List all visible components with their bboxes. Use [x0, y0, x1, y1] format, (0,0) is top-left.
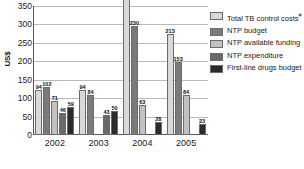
y-axis-ticks: 350 300 250 200 150 100 50 0 [2, 0, 32, 169]
bar-groups: 94 102 71 46 59 94 [33, 6, 208, 135]
bar-slot-ntp-funding: 71 [51, 6, 58, 135]
bar-chart: US$ 350 300 250 200 150 100 50 0 94 [0, 0, 304, 169]
bar-ntp-expenditure: 43 [103, 115, 110, 135]
bar-total-cost: 94 [35, 90, 42, 135]
plot-area: 94 102 71 46 59 94 [33, 6, 208, 135]
bar-value-label: 50 [112, 106, 118, 112]
bar-slot-ntp-expenditure: 43 [103, 6, 110, 135]
legend-label-total-cost: Total TB control costs# [227, 11, 302, 23]
bar-slot-total-cost: 94 [35, 6, 42, 135]
bar-value-label: 213 [166, 29, 175, 35]
bar-value-label: 94 [36, 85, 42, 91]
legend-label-drugs-budget: First-line drugs budget [227, 64, 302, 73]
bar-group-2003: 94 84 43 50 [77, 6, 121, 135]
bar-ntp-budget: 230 [131, 26, 138, 135]
legend-swatch-icon [210, 28, 223, 36]
bar-slot-ntp-funding [95, 6, 102, 135]
bar-ntp-budget: 153 [175, 62, 182, 135]
legend-item-ntp-funding: NTP available funding [210, 39, 302, 48]
y-tick-250: 250 [6, 38, 32, 48]
x-label-2005: 2005 [164, 138, 208, 148]
bar-drugs-budget: 59 [67, 107, 74, 135]
x-axis-labels: 2002 2003 2004 2005 [33, 138, 208, 148]
bar-slot-ntp-budget: 102 [43, 6, 50, 135]
bar-drugs-budget: 23 [199, 124, 206, 135]
y-tick-300: 300 [6, 19, 32, 29]
bar-slot-ntp-expenditure [147, 6, 154, 135]
bar-slot-drugs-budget: 59 [67, 6, 74, 135]
x-label-2004: 2004 [121, 138, 165, 148]
bar-value-label: 102 [42, 82, 51, 88]
bar-value-label: 23 [199, 119, 205, 125]
y-tick-200: 200 [6, 56, 32, 66]
bar-slot-ntp-budget: 84 [87, 6, 94, 135]
bar-value-label: 153 [174, 57, 183, 63]
legend-label-text: Total TB control costs [227, 14, 299, 23]
bar-ntp-budget: 102 [43, 87, 50, 136]
bar-slot-ntp-expenditure: 46 [59, 6, 66, 135]
bar-value-label: 84 [88, 90, 94, 96]
legend-swatch-icon [210, 53, 223, 61]
legend-item-drugs-budget: First-line drugs budget [210, 64, 302, 73]
legend-label-ntp-expenditure: NTP expenditure [227, 52, 283, 61]
bar-value-label: 63 [139, 100, 145, 106]
legend-item-ntp-budget: NTP budget [210, 27, 302, 36]
bar-value-label: 59 [68, 102, 74, 108]
legend-swatch-icon [210, 12, 223, 20]
bar-slot-ntp-funding: 63 [139, 6, 146, 135]
bar-slot-ntp-budget: 153 [175, 6, 182, 135]
y-tick-0: 0 [6, 130, 32, 140]
legend-item-ntp-expenditure: NTP expenditure [210, 52, 302, 61]
x-label-2003: 2003 [77, 138, 121, 148]
bar-group-2004: 288 230 63 28 [121, 6, 165, 135]
bar-drugs-budget: 28 [155, 122, 162, 135]
legend-label-ntp-budget: NTP budget [227, 27, 267, 36]
bar-total-cost: 213 [167, 34, 174, 135]
bar-value-label: 28 [155, 117, 161, 123]
bar-slot-drugs-budget: 23 [199, 6, 206, 135]
legend-swatch-icon [210, 40, 223, 48]
bar-slot-drugs-budget: 28 [155, 6, 162, 135]
y-tick-350: 350 [6, 1, 32, 11]
bar-value-label: 84 [183, 90, 189, 96]
x-label-2002: 2002 [33, 138, 77, 148]
bar-slot-total-cost: 94 [79, 6, 86, 135]
bar-ntp-funding: 71 [51, 101, 58, 135]
bar-slot-ntp-budget: 230 [131, 6, 138, 135]
y-tick-150: 150 [6, 75, 32, 85]
bar-ntp-funding: 84 [183, 95, 190, 135]
bar-value-label: 43 [104, 110, 110, 116]
legend-item-total-cost: Total TB control costs# [210, 11, 302, 23]
bar-ntp-budget: 84 [87, 95, 94, 135]
bar-value-label: 46 [60, 108, 66, 114]
bar-total-cost: 94 [79, 90, 86, 135]
bar-slot-ntp-funding: 84 [183, 6, 190, 135]
legend-footnote-marker: # [299, 12, 302, 18]
bar-group-2005: 213 153 84 23 [164, 6, 208, 135]
y-tick-100: 100 [6, 93, 32, 103]
bar-value-label: 230 [130, 21, 139, 27]
bar-group-2002: 94 102 71 46 59 [33, 6, 77, 135]
bar-slot-ntp-expenditure [191, 6, 198, 135]
bar-ntp-expenditure: 46 [59, 113, 66, 135]
y-tick-50: 50 [6, 112, 32, 122]
chart-legend: Total TB control costs# NTP budget NTP a… [210, 11, 302, 77]
bar-value-label: 71 [52, 96, 58, 102]
bar-drugs-budget: 50 [111, 111, 118, 135]
bar-slot-total-cost: 213 [167, 6, 174, 135]
legend-swatch-icon [210, 65, 223, 73]
bar-slot-drugs-budget: 50 [111, 6, 118, 135]
legend-label-ntp-funding: NTP available funding [227, 39, 300, 48]
bar-ntp-funding: 63 [139, 105, 146, 135]
bar-value-label: 94 [80, 85, 86, 91]
